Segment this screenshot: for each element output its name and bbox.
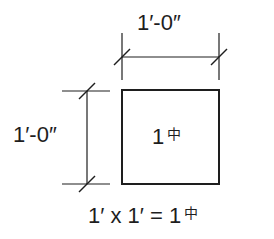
width-dimension-label: 1′-0″ xyxy=(137,12,181,34)
height-dimension xyxy=(62,83,110,192)
square-area-value: 1 xyxy=(152,124,164,149)
square-area-label: 1中 xyxy=(152,126,181,148)
height-dimension-label: 1′-0″ xyxy=(13,124,57,146)
area-equation: 1′ x 1′ = 1中 xyxy=(88,205,198,227)
square-foot-symbol-icon: 中 xyxy=(184,205,198,221)
square-foot-symbol-icon: 中 xyxy=(167,126,181,142)
equation-text: 1′ x 1′ = 1 xyxy=(88,203,181,228)
width-dimension xyxy=(114,33,227,80)
